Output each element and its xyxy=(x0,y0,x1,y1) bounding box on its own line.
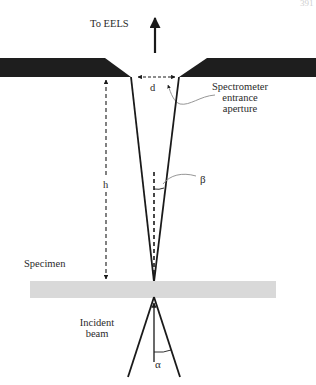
incident-beam-left xyxy=(128,297,154,377)
aperture-label-line2: entrance xyxy=(222,92,258,103)
alpha-angle-arc xyxy=(154,350,171,352)
incident-label-line1: Incident xyxy=(80,317,114,328)
page-number: 391 xyxy=(300,0,314,8)
aperture-plate-right xyxy=(179,58,316,77)
incident-label-line2: beam xyxy=(86,328,109,339)
d-label: d xyxy=(150,82,156,93)
beam-cone-right xyxy=(154,77,179,282)
h-label: h xyxy=(103,179,109,190)
aperture-label-line3: aperture xyxy=(223,103,258,114)
beta-label: β xyxy=(200,173,206,185)
to-eels-label: To EELS xyxy=(90,18,129,29)
specimen-label: Specimen xyxy=(24,258,66,269)
aperture-label-line1: Spectrometer xyxy=(212,81,268,92)
specimen-slab xyxy=(30,281,276,298)
alpha-label: α xyxy=(155,358,161,370)
eels-aperture-diagram: 391 To EELS d Spectrometer entrance aper… xyxy=(0,0,316,385)
beam-cone-left xyxy=(131,77,154,282)
aperture-leader-line xyxy=(168,85,215,104)
beta-angle-arc xyxy=(154,188,164,189)
beta-leader-line xyxy=(163,174,196,184)
aperture-plate-left xyxy=(0,58,131,77)
